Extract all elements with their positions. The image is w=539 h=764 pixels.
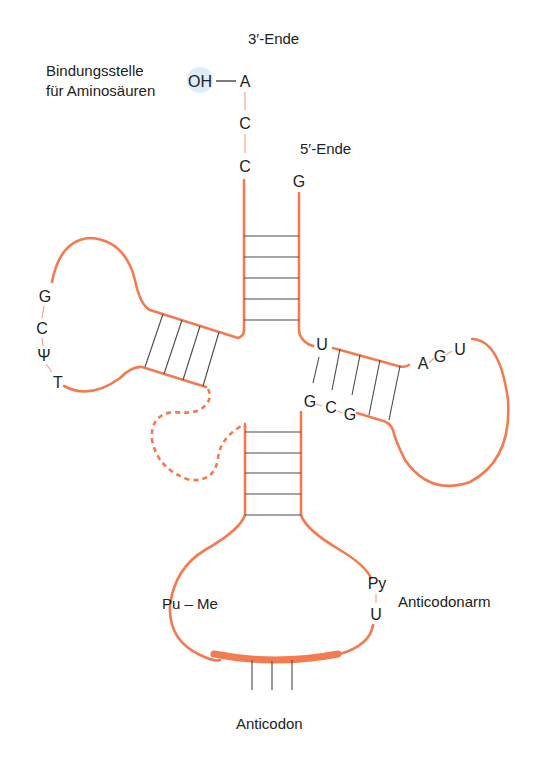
- t-arm-rungs: [145, 314, 219, 386]
- binding-site-label-line2: für Aminosäuren: [46, 82, 155, 99]
- five-prime-end-label: 5′-Ende: [300, 140, 351, 157]
- d-arm-base-g2: G: [434, 348, 446, 365]
- anticodon-ticks: [252, 660, 292, 690]
- anticodon-loop-base-py: Py: [368, 575, 387, 592]
- d-arm-upper-strand: [333, 348, 409, 367]
- d-arm-base-g3: G: [344, 406, 356, 423]
- acceptor-stem-left-strand: [52, 180, 244, 338]
- anticodon-label: Anticodon: [236, 715, 303, 732]
- anticodon-bar: [214, 654, 338, 660]
- anticodon-stem-left-strand: [170, 424, 245, 660]
- binding-site-label-line1: Bindungsstelle: [46, 62, 144, 79]
- d-arm-base-c: C: [325, 399, 337, 416]
- t-arm-lower-strand: [64, 367, 206, 392]
- acceptor-base-c1: C: [239, 115, 251, 132]
- d-arm-link-gu: [446, 351, 452, 355]
- t-arm-link-2: [42, 338, 43, 346]
- d-arm-base-u2: U: [454, 341, 466, 358]
- anticodon-loop-base-u: U: [370, 606, 382, 623]
- t-arm-link-1: [42, 306, 44, 318]
- d-arm-link-cg: [337, 411, 342, 413]
- t-arm-base-psi: Ψ: [37, 347, 50, 364]
- d-arm-base-u1: U: [316, 336, 328, 353]
- t-arm-base-t: T: [53, 374, 63, 391]
- acceptor-stem-rungs: [244, 236, 299, 320]
- five-prime-base-g: G: [293, 173, 305, 190]
- acceptor-base-a: A: [240, 73, 251, 90]
- three-prime-end-label: 3′-Ende: [248, 30, 299, 47]
- d-arm-link-gc: [316, 404, 322, 406]
- pu-me-label: Pu – Me: [162, 595, 218, 612]
- t-arm-base-g: G: [39, 288, 51, 305]
- d-arm-base-a: A: [418, 355, 429, 372]
- trna-cloverleaf-diagram: 3′-Ende Bindungsstelle für Aminosäuren O…: [0, 0, 539, 764]
- anticodon-loop-right-lower: [340, 625, 373, 654]
- acceptor-base-c2: C: [239, 158, 251, 175]
- anticodon-stem-right-strand: [301, 412, 371, 578]
- acceptor-stem-right-strand: [299, 193, 313, 346]
- t-arm-base-c: C: [36, 320, 48, 337]
- variable-loop-dashed: [152, 389, 245, 480]
- anticodon-arm-label: Anticodonarm: [398, 593, 491, 610]
- oh-group-label: OH: [188, 73, 212, 90]
- anticodon-stem-rungs: [245, 432, 301, 515]
- d-arm-base-g: G: [304, 393, 316, 410]
- t-arm-link-3: [46, 364, 52, 372]
